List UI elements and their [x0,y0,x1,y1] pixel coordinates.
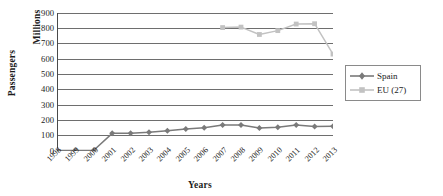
data-point-marker [146,129,152,135]
y-tick-label: 100 [28,131,54,140]
y-tick-label: 800 [28,24,54,33]
chart-legend: Spain EU (27) [345,65,421,101]
data-point-marker [220,122,226,128]
y-tick-label: 700 [28,39,54,48]
data-point-marker [330,123,333,129]
legend-marker-eu27 [349,84,375,96]
data-point-marker [220,25,225,30]
y-tick-label: 500 [28,70,54,79]
legend-label-eu27: EU (27) [375,85,406,95]
data-point-marker [239,25,244,30]
data-point-marker [164,128,170,134]
line-chart-figure: Passengers Millions 01002003004005006007… [0,0,443,196]
series-line-spain [57,125,333,151]
y-tick-label: 200 [28,116,54,125]
data-point-marker [312,123,318,129]
legend-item-spain[interactable]: Spain [349,69,416,83]
y-tick-label: 600 [28,55,54,64]
data-point-marker [312,21,317,26]
data-point-marker [275,28,280,33]
data-point-marker [238,122,244,128]
data-point-marker [256,125,262,131]
legend-item-eu27[interactable]: EU (27) [349,83,416,97]
data-series-layer [57,21,333,151]
y-tick-label: 900 [28,9,54,18]
y-tick-label: 300 [28,101,54,110]
y-axis-tick-labels: 0100200300400500600700800900 [24,0,54,160]
data-point-marker [257,32,262,37]
y-axis-title-outer: Passengers [7,40,17,106]
data-point-marker [293,122,299,128]
axis-lines [57,13,333,151]
data-point-marker [275,124,281,130]
legend-label-spain: Spain [375,71,398,81]
plot-svg [57,13,333,151]
y-tick-label: 400 [28,85,54,94]
data-point-marker [201,125,207,131]
legend-marker-spain [349,70,375,82]
plot-area [57,13,333,151]
data-point-marker [294,22,299,27]
data-point-marker [331,52,333,57]
gridlines [57,13,333,136]
x-axis-title: Years [150,180,250,190]
data-point-marker [183,126,189,132]
